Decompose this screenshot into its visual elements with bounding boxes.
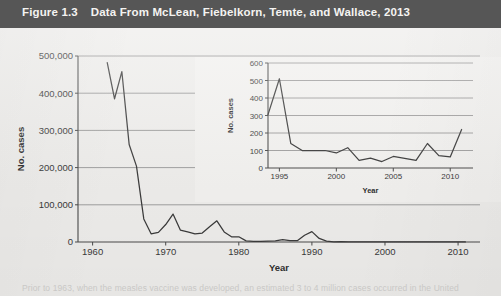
figure-caption-strip: Prior to 1963, when the measles vaccine … [0,282,501,296]
figure-caption-text: Prior to 1963, when the measles vaccine … [22,283,459,293]
inset-x-tick-label: 2010 [441,172,459,181]
main-y-tick-label: 300,000 [39,125,73,136]
inset-y-tick-label: 100 [250,147,264,156]
inset-y-tick-label: 0 [259,164,264,173]
inset-y-tick-label: 300 [250,112,264,121]
inset-chart-y-axis-title: No. cases [226,98,235,133]
inset-y-tick-label: 400 [250,94,264,103]
main-y-tick-label: 200,000 [39,162,73,173]
main-x-tick-label: 1980 [228,246,249,257]
inset-y-tick-label: 600 [250,59,264,68]
figure-title: Data From McLean, Fiebelkorn, Temte, and… [91,6,410,18]
main-y-tick-label: 400,000 [39,88,73,99]
main-y-tick-label: 0 [68,236,73,247]
figure-title-text: Figure 1.3Data From McLean, Fiebelkorn, … [22,6,410,18]
inset-chart-x-axis-title: Year [363,186,379,195]
main-x-tick-label: 2000 [374,246,395,257]
figure-title-bar: Figure 1.3Data From McLean, Fiebelkorn, … [0,0,501,28]
inset-x-tick-label: 1995 [270,172,288,181]
main-chart-x-axis-title: Year [269,262,289,273]
main-x-tick-label: 2010 [448,246,469,257]
main-y-tick-label: 500,000 [39,50,73,61]
inset-x-tick-label: 2005 [384,172,402,181]
main-x-tick-label: 1960 [82,246,103,257]
inset-y-tick-label: 500 [250,77,264,86]
main-chart-y-axis-title: No. cases [15,127,26,171]
inset-x-tick-label: 2000 [327,172,345,181]
main-x-tick-label: 1990 [301,246,322,257]
main-chart-x-tick-labels: 196019701980199020002010 [82,246,469,257]
figure-number: Figure 1.3 [22,6,78,18]
main-chart-y-tick-labels: 0100,000200,000300,000400,000500,000 [39,50,73,247]
main-x-tick-label: 1970 [155,246,176,257]
figure-graphic: 0100,000200,000300,000400,000500,000 196… [0,28,501,278]
measles-cases-chart: 0100,000200,000300,000400,000500,000 196… [0,28,501,278]
inset-y-tick-label: 200 [250,129,264,138]
main-y-tick-label: 100,000 [39,199,73,210]
